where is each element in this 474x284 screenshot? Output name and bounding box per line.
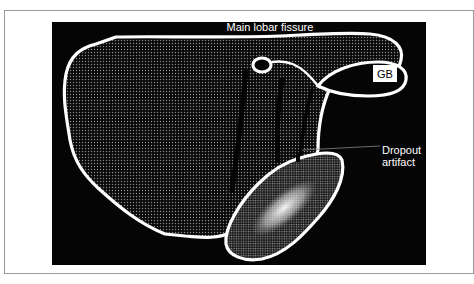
vessel-ring bbox=[253, 58, 271, 72]
dropout-label-line1: Dropout bbox=[382, 144, 421, 156]
gb-label: GB bbox=[377, 68, 393, 80]
liver-outline bbox=[64, 33, 401, 237]
outline-gap bbox=[296, 154, 300, 162]
dropout-label-line2: artifact bbox=[382, 156, 415, 168]
fissure-label: Main lobar fissure bbox=[227, 21, 314, 33]
